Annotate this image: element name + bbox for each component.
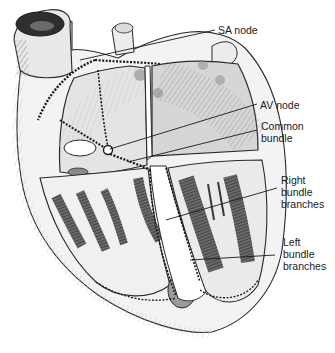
label-av-node: AV node [260, 99, 300, 111]
label-common-bundle: Common bundle [261, 120, 304, 144]
label-sa-node: SA node [218, 24, 258, 36]
label-left-bundle-branches: Left bundle branches [283, 236, 326, 272]
aorta [14, 10, 72, 78]
label-right-bundle-branches: Right bundle branches [281, 174, 324, 210]
right-atrium [60, 66, 147, 176]
left-atrium [134, 60, 258, 156]
